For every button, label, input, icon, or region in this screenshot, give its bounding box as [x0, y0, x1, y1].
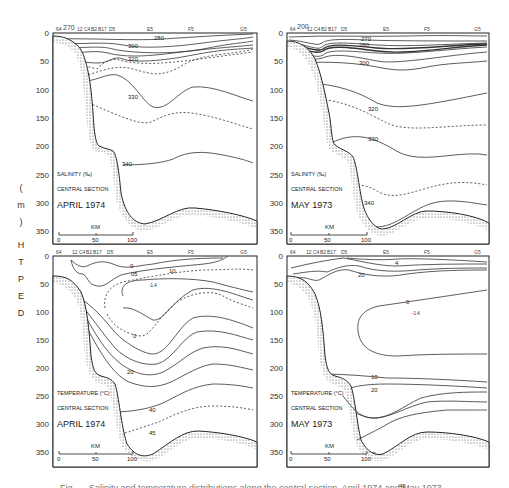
panel-temperature-may-1973: 0 50 100 150 200 250 300 350 64 12 C4 B2…	[270, 249, 489, 488]
station-label: C4	[314, 26, 321, 32]
scale-tick: 50	[324, 456, 331, 462]
station-label: C4	[79, 249, 86, 255]
contour-label: 10	[371, 374, 378, 380]
contour-label: 45	[149, 430, 156, 436]
axis-title-char: H	[14, 237, 28, 254]
variable-label: TEMPERATURE (°C)	[291, 390, 344, 396]
variable-label: SALINITY (‰)	[291, 171, 326, 177]
scale-label: KM	[325, 443, 334, 449]
station-label: E5	[383, 26, 389, 32]
contour-labels: 270 280 300 320 330 340	[359, 36, 379, 206]
date-label: APRIL 1974	[57, 419, 105, 429]
axis-title-char: (	[14, 180, 28, 197]
contour-label: 20	[358, 272, 365, 278]
scale-tick: 100	[361, 237, 372, 243]
station-labels: 64 270 12 C4 B2 B17 D5 E5 F5 G5	[56, 24, 247, 32]
date-label: MAY 1973	[291, 419, 332, 429]
variable-label: SALINITY (‰)	[57, 171, 92, 177]
y-axis: 0 50 100 150 200 250 300 350	[36, 29, 50, 236]
contour-label: 10	[169, 268, 176, 274]
panel-salinity-may-1973: 0 50 100 150 200 250 300 350 64 200 12 C…	[270, 23, 489, 244]
y-tick: 200	[36, 364, 50, 373]
y-tick: 250	[36, 171, 50, 180]
scale-tick: 100	[127, 237, 138, 243]
scale-tick: 100	[127, 456, 138, 462]
axis-title-char: )	[14, 214, 28, 231]
station-label: 64	[290, 249, 296, 255]
y-axis: 0 50 100 150 200 250 300 350	[36, 252, 50, 457]
station-label: B2	[91, 26, 97, 32]
station-label: 64	[56, 26, 62, 32]
y-tick: 350	[36, 448, 50, 457]
section-label: CENTRAL SECTION	[291, 186, 342, 192]
y-tick: 100	[36, 86, 50, 95]
scale-label: KM	[325, 224, 334, 230]
figure: 0 50 100 150 200 250 300 350 64 270 12 C…	[0, 0, 509, 488]
station-label: 12	[307, 26, 313, 32]
station-label: F5	[188, 249, 194, 255]
scale-tick: 50	[92, 237, 99, 243]
contour-label: 320	[368, 106, 379, 112]
station-label: G5	[240, 249, 247, 255]
y-tick: 300	[270, 420, 284, 429]
station-label: B2	[86, 249, 92, 255]
station-label: F5	[188, 26, 194, 32]
station-label: B2	[321, 26, 327, 32]
station-label: 64	[290, 26, 296, 32]
station-label: B2	[320, 249, 326, 255]
station-label: D5	[341, 249, 348, 255]
station-label: B17	[327, 249, 336, 255]
y-tick: 50	[274, 280, 283, 289]
date-label: MAY 1973	[291, 200, 332, 210]
station-label: 12	[72, 249, 78, 255]
contour-label: 300	[359, 60, 370, 66]
station-label: G5	[474, 26, 481, 32]
y-tick: 250	[36, 392, 50, 401]
y-tick: 350	[270, 227, 284, 236]
y-tick: 200	[36, 142, 50, 151]
date-label: APRIL 1974	[57, 200, 105, 210]
station-label: G5	[240, 26, 247, 32]
y-tick: 150	[270, 114, 284, 123]
contour-label: 280	[154, 35, 165, 41]
station-label: E5	[147, 26, 153, 32]
panel-salinity-april-1974: 0 50 100 150 200 250 300 350 64 270 12 C…	[36, 24, 257, 244]
y-tick: 100	[270, 308, 284, 317]
contour-label: 40	[149, 407, 156, 413]
axis-title-char: E	[14, 288, 28, 305]
contour-label: -1.4	[149, 283, 157, 288]
variable-label: TEMPERATURE (°C)	[57, 390, 110, 396]
y-tick: 0	[279, 29, 284, 38]
axis-title-char: P	[14, 271, 28, 288]
station-label: 64	[56, 249, 62, 255]
y-tick: 200	[270, 364, 284, 373]
y-tick: 150	[36, 114, 50, 123]
station-labels: 64 12 C4 B2 B17 D5 E5 F5 G5	[56, 249, 247, 255]
y-axis: 0 50 100 150 200 250 300 350	[270, 29, 284, 236]
y-tick: 150	[270, 336, 284, 345]
axis-title-char: m	[14, 197, 28, 214]
contour-label: 300	[128, 43, 139, 49]
contour-label: 330	[128, 94, 139, 100]
y-tick: 0	[45, 29, 50, 38]
y-tick: 100	[270, 86, 284, 95]
scale-label: KM	[91, 224, 100, 230]
y-tick: 250	[270, 171, 284, 180]
station-label: D5	[109, 26, 116, 32]
contour-label: 4	[395, 260, 399, 266]
station-label: B17	[328, 26, 337, 32]
contour-label: 20	[371, 387, 378, 393]
contour-label: 280	[359, 42, 370, 48]
y-tick: 300	[36, 420, 50, 429]
station-label: 12	[306, 249, 312, 255]
y-axis: 0 50 100 150 200 250 300 350	[270, 252, 284, 457]
station-label: 270	[63, 24, 75, 31]
contour-label: 20	[127, 369, 134, 375]
y-tick: 350	[36, 227, 50, 236]
y-tick: 50	[40, 280, 49, 289]
station-label: C4	[313, 249, 320, 255]
station-label: D5	[107, 249, 114, 255]
contour-label: 05	[131, 271, 138, 277]
y-tick: 100	[36, 308, 50, 317]
y-tick: 0	[279, 252, 284, 261]
